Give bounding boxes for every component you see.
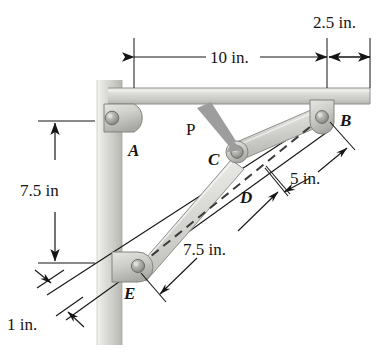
force-arrow-p: [197, 102, 243, 152]
dimension-label-vertical: 7.5 in: [20, 181, 59, 200]
dimension-label-wall-offset: 1 in.: [7, 315, 37, 334]
dimension-label-link-upper: 5 in.: [290, 169, 320, 188]
pin-joint-e: [112, 252, 153, 282]
point-label-d: D: [239, 188, 252, 207]
point-label-b: B: [339, 111, 351, 130]
point-label-a: A: [127, 141, 139, 160]
dimension-label-link-lower: 7.5 in.: [183, 240, 226, 259]
engineering-figure: P 10 in. 2.5 in. 7.5 in: [0, 0, 382, 357]
force-label-p: P: [186, 120, 195, 139]
dimension-label-top-span: 10 in.: [210, 48, 249, 67]
point-label-e: E: [123, 284, 135, 303]
point-label-c: C: [208, 150, 220, 169]
dimension-top-overhang: [329, 38, 370, 88]
pin-joint-a: [104, 104, 142, 132]
dimension-wall-offset: [35, 270, 84, 327]
figure-canvas: P 10 in. 2.5 in. 7.5 in: [0, 0, 382, 357]
dimension-label-top-overhang: 2.5 in.: [313, 13, 356, 32]
pin-joint-b: [310, 100, 334, 134]
